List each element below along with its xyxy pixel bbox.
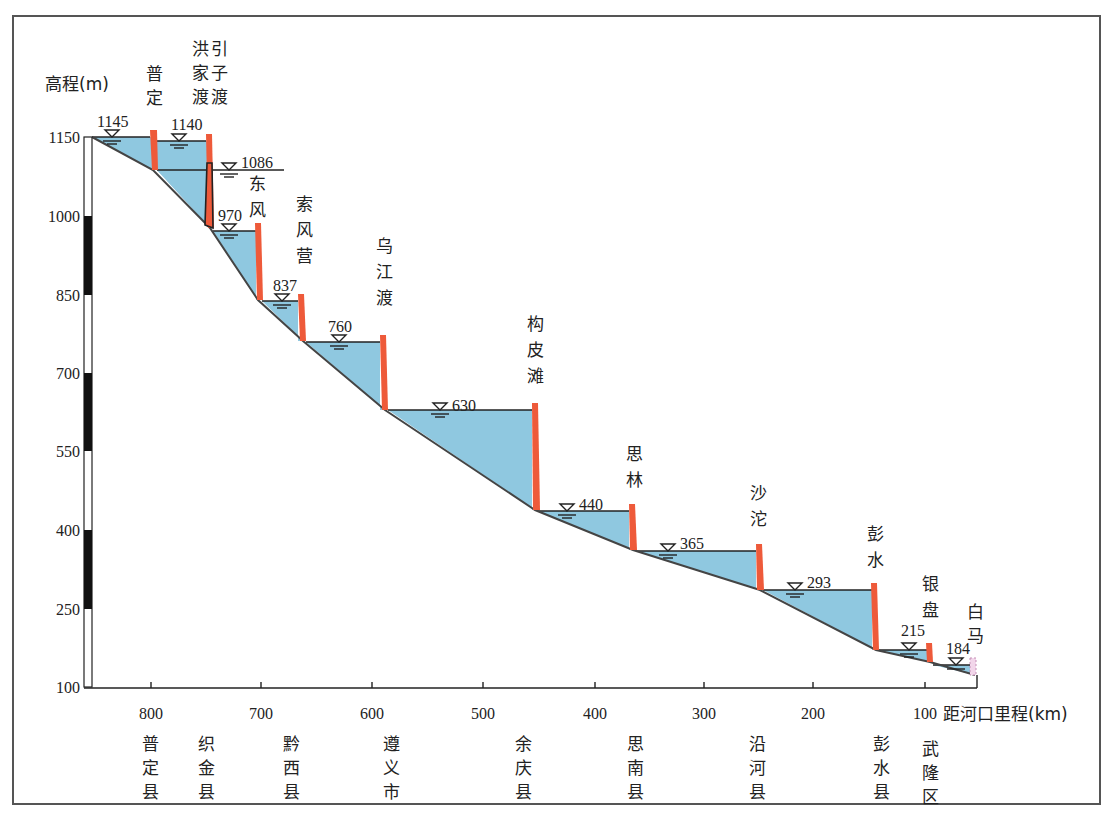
svg-text:家: 家 (192, 63, 209, 83)
station-wujiangdu: 乌江渡 (376, 236, 393, 308)
svg-text:定: 定 (142, 758, 159, 778)
xtick-400: 400 (583, 705, 607, 722)
svg-text:江: 江 (376, 262, 393, 282)
station-suofengying: 索风营 (296, 194, 313, 266)
svg-text:索: 索 (296, 194, 313, 214)
dam-shatuo (756, 544, 764, 590)
scale-black-2 (84, 373, 92, 451)
county-zunyi: 遵义市 (383, 734, 400, 802)
svg-text:风: 风 (249, 200, 266, 220)
scale-black-3 (84, 530, 92, 609)
svg-text:普: 普 (146, 64, 163, 84)
station-hongjiadu: 洪家渡 (192, 39, 209, 107)
station-yinpan: 银盘 (922, 574, 939, 620)
svg-text:武: 武 (922, 739, 939, 759)
svg-text:县: 县 (283, 782, 300, 802)
station-goupitan: 构皮滩 (527, 314, 544, 386)
svg-text:普: 普 (142, 734, 159, 754)
county-qianxi: 黔西县 (283, 734, 300, 802)
station-dongfeng: 东风 (249, 174, 266, 220)
ytick-1150: 1150 (49, 129, 80, 146)
svg-text:金: 金 (198, 758, 215, 778)
level-293: 293 (807, 574, 831, 591)
svg-text:水: 水 (873, 758, 890, 778)
station-yinzidu: 引子渡 (211, 39, 228, 107)
county-labels: 普定县 织金县 黔西县 遵义市 余庆县 思南县 沿河县 彭水县 武隆区 (142, 734, 939, 807)
level-630: 630 (452, 397, 476, 414)
xtick-700: 700 (249, 705, 273, 722)
x-axis-title: 距河口里程(km) (943, 704, 1068, 724)
dam-suofengying (298, 294, 306, 341)
xtick-100: 100 (913, 705, 937, 722)
dam-hongjiadu (205, 163, 213, 228)
svg-text:乌: 乌 (376, 236, 393, 256)
svg-text:皮: 皮 (527, 340, 544, 360)
svg-text:彭: 彭 (867, 524, 884, 544)
svg-text:滩: 滩 (527, 366, 544, 386)
svg-text:县: 县 (873, 782, 890, 802)
svg-text:洪: 洪 (192, 39, 209, 59)
level-440: 440 (579, 496, 603, 513)
svg-text:隆: 隆 (922, 763, 939, 783)
svg-text:县: 县 (142, 782, 159, 802)
xtick-800: 800 (139, 705, 163, 722)
ytick-100: 100 (56, 679, 80, 696)
station-labels: 普定 洪家渡 引子渡 东风 索风营 乌江渡 构皮滩 思林 沙沱 彭水 银盘 白马 (146, 39, 984, 646)
svg-text:区: 区 (922, 787, 939, 807)
level-760: 760 (328, 318, 352, 335)
dam-wujiangdu (380, 335, 388, 410)
level-970: 970 (218, 207, 242, 224)
svg-text:沿: 沿 (749, 734, 766, 754)
svg-text:白: 白 (967, 602, 984, 622)
svg-text:彭: 彭 (873, 734, 890, 754)
station-puding: 普定 (146, 64, 163, 108)
county-wulong: 武隆区 (922, 739, 939, 807)
svg-text:子: 子 (211, 63, 228, 83)
svg-text:义: 义 (383, 758, 400, 778)
level-837: 837 (273, 277, 297, 294)
svg-text:风: 风 (296, 220, 313, 240)
svg-text:渡: 渡 (211, 87, 228, 107)
station-silin: 思林 (626, 444, 643, 490)
svg-text:盘: 盘 (922, 600, 939, 620)
xtick-300: 300 (692, 705, 716, 722)
svg-text:南: 南 (627, 758, 644, 778)
cascade-profile-diagram: 1145 1140 1086 970 837 760 630 440 365 2… (0, 0, 1108, 820)
svg-text:马: 马 (967, 626, 984, 646)
ytick-1000: 1000 (48, 208, 80, 225)
svg-text:沱: 沱 (750, 509, 767, 529)
svg-text:构: 构 (527, 314, 544, 334)
svg-text:东: 东 (249, 174, 266, 194)
svg-text:庆: 庆 (515, 758, 532, 778)
ytick-700: 700 (56, 365, 80, 382)
dam-baima (970, 658, 976, 675)
svg-text:县: 县 (515, 782, 532, 802)
svg-text:林: 林 (626, 470, 643, 490)
ytick-550: 550 (56, 443, 80, 460)
svg-text:定: 定 (146, 88, 163, 108)
svg-text:县: 县 (749, 782, 766, 802)
level-1140: 1140 (171, 116, 202, 133)
svg-text:营: 营 (296, 246, 313, 266)
station-shatuo: 沙沱 (750, 483, 767, 529)
dam-silin (629, 504, 637, 550)
level-215: 215 (901, 622, 925, 639)
county-yanhe: 沿河县 (749, 734, 766, 802)
svg-text:引: 引 (211, 39, 228, 59)
ytick-850: 850 (56, 287, 80, 304)
y-axis: 高程(m) 1150 1000 850 700 550 400 250 100 (45, 74, 109, 696)
svg-text:县: 县 (627, 782, 644, 802)
dam-goupitan (532, 403, 540, 510)
ytick-400: 400 (56, 522, 80, 539)
y-axis-title: 高程(m) (45, 74, 109, 94)
county-yuqing: 余庆县 (515, 734, 532, 802)
svg-text:思: 思 (627, 734, 644, 754)
svg-text:渡: 渡 (192, 87, 209, 107)
svg-text:黔: 黔 (283, 734, 300, 754)
xtick-200: 200 (801, 705, 825, 722)
scale-black-1 (84, 216, 92, 295)
svg-text:织: 织 (198, 734, 215, 754)
svg-text:银: 银 (922, 574, 939, 594)
svg-text:县: 县 (198, 782, 215, 802)
svg-text:渡: 渡 (376, 288, 393, 308)
